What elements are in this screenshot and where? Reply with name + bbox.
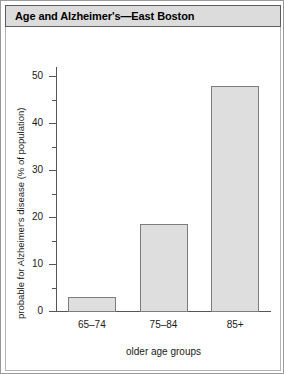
y-axis-tick [49, 264, 56, 265]
y-axis-tick [49, 170, 56, 171]
bar [211, 86, 259, 312]
y-axis-tick [49, 217, 56, 218]
y-axis-tick [49, 311, 56, 312]
y-axis-tick [49, 123, 56, 124]
y-axis-title: probable for Alzheimer's disease (% of p… [15, 59, 26, 319]
bar-series [56, 67, 271, 312]
bar [140, 224, 188, 312]
x-axis-tick-label: 85+ [199, 319, 271, 330]
bar [68, 297, 116, 312]
y-axis-tick [49, 76, 56, 77]
x-axis-tick-label: 75–84 [128, 319, 200, 330]
x-axis-title: older age groups [56, 346, 271, 357]
chart-figure: Age and Alzheimer's—East Boston 01020304… [0, 0, 284, 374]
chart-title-bar: Age and Alzheimer's—East Boston [5, 5, 281, 27]
x-axis-tick-label: 65–74 [56, 319, 128, 330]
page-title: Age and Alzheimer's—East Boston [6, 10, 194, 22]
bar-slot [211, 68, 259, 312]
bar-slot [140, 68, 188, 312]
bar-slot [68, 68, 116, 312]
